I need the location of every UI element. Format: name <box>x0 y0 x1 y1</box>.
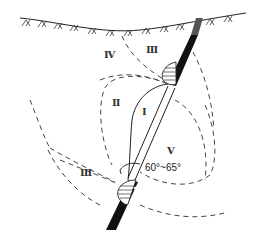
angle-annotation: 60°~65° <box>145 163 181 173</box>
zone-label-i: Ⅰ <box>142 107 147 117</box>
zone-label-v: Ⅴ <box>167 146 175 156</box>
zone-label-ii: Ⅱ <box>112 98 120 108</box>
ore-body-upper-grey <box>191 18 203 35</box>
angle-arc <box>120 163 140 170</box>
zone-label-iii-upper: Ⅲ <box>146 45 158 55</box>
lower-hatched-lens <box>118 180 137 205</box>
diagram-drawing <box>0 0 254 251</box>
angle-ref-line <box>120 170 121 174</box>
zone-label-iv: Ⅳ <box>104 50 115 60</box>
geological-diagram: Ⅳ Ⅲ Ⅱ Ⅰ Ⅴ Ⅲ 60°~65° <box>0 0 254 251</box>
zone-label-iii-lower: Ⅲ <box>80 168 92 178</box>
